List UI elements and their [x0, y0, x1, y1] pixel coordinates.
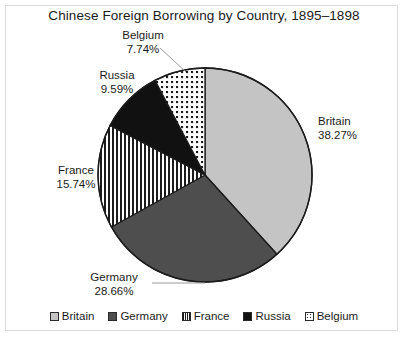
legend-item-germany: Germany [108, 310, 167, 322]
slice-label-belgium-name: Belgium [122, 29, 164, 41]
slice-label-germany-name: Germany [90, 271, 137, 283]
slice-label-britain-value: 38.27% [318, 128, 396, 142]
legend-swatch-belgium-icon [305, 312, 314, 321]
slice-label-britain: Britain 38.27% [318, 114, 396, 142]
legend-item-russia: Russia [243, 310, 290, 322]
slice-label-germany: Germany 28.66% [78, 270, 150, 298]
legend-item-belgium: Belgium [305, 310, 359, 322]
pie-chart-figure: Chinese Foreign Borrowing by Country, 18… [0, 0, 408, 337]
slice-label-russia-value: 9.59% [86, 82, 148, 96]
slice-label-belgium: Belgium 7.74% [113, 28, 173, 56]
legend-label-russia: Russia [255, 310, 290, 322]
legend-label-britain: Britain [62, 310, 95, 322]
slice-label-france-value: 15.74% [41, 177, 111, 191]
legend-swatch-russia-icon [243, 312, 252, 321]
legend-label-germany: Germany [120, 310, 167, 322]
legend-swatch-france-icon [182, 312, 191, 321]
legend-label-france: France [194, 310, 230, 322]
slice-label-britain-name: Britain [318, 115, 351, 127]
legend-label-belgium: Belgium [317, 310, 359, 322]
legend-swatch-germany-icon [108, 312, 117, 321]
slice-label-france: France 15.74% [41, 163, 111, 191]
slice-label-russia: Russia 9.59% [86, 68, 148, 96]
legend-item-france: France [182, 310, 230, 322]
legend-item-britain: Britain [50, 310, 95, 322]
slice-label-france-name: France [58, 164, 94, 176]
slice-label-germany-value: 28.66% [78, 284, 150, 298]
slice-label-russia-name: Russia [99, 69, 134, 81]
slice-label-belgium-value: 7.74% [113, 42, 173, 56]
chart-legend: Britain Germany France Russia Belgium [0, 310, 408, 322]
legend-swatch-britain-icon [50, 312, 59, 321]
